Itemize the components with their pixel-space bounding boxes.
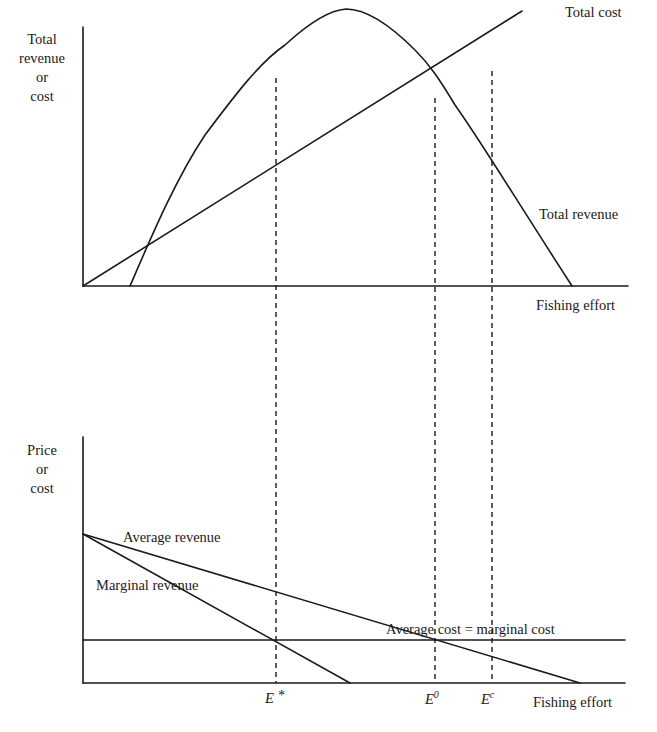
total-cost-label: Total cost	[565, 3, 622, 22]
bottom-y-axis-label: Price or cost	[10, 441, 74, 498]
average-revenue-label: Average revenue	[123, 528, 221, 547]
top-ylabel-line-4: cost	[10, 87, 74, 106]
e-star-tick-label: E *	[265, 688, 284, 707]
total-revenue-label: Total revenue	[539, 205, 618, 224]
ac-mc-label: Average cost = marginal cost	[386, 620, 555, 639]
fishery-economics-figure	[0, 0, 657, 732]
e-c-tick-label: Ec	[481, 689, 494, 708]
bottom-ylabel-line-3: cost	[10, 479, 74, 498]
total-revenue-curve	[130, 9, 572, 286]
average-revenue-line	[83, 534, 580, 683]
top-y-axis-label: Total revenue or cost	[10, 30, 74, 106]
top-ylabel-line-1: Total	[10, 30, 74, 49]
top-ylabel-line-3: or	[10, 68, 74, 87]
e-zero-sup: 0	[434, 689, 439, 700]
e-c-sup: c	[490, 689, 494, 700]
marginal-revenue-label: Marginal revenue	[96, 576, 198, 595]
bottom-ylabel-line-1: Price	[10, 441, 74, 460]
top-ylabel-line-2: revenue	[10, 49, 74, 68]
bottom-ylabel-line-2: or	[10, 460, 74, 479]
e-star-sup: *	[277, 688, 284, 703]
e-zero-tick-label: E0	[425, 689, 439, 708]
top-x-axis-label: Fishing effort	[536, 296, 615, 315]
marginal-revenue-line	[83, 534, 350, 683]
bottom-x-axis-label: Fishing effort	[533, 693, 612, 712]
